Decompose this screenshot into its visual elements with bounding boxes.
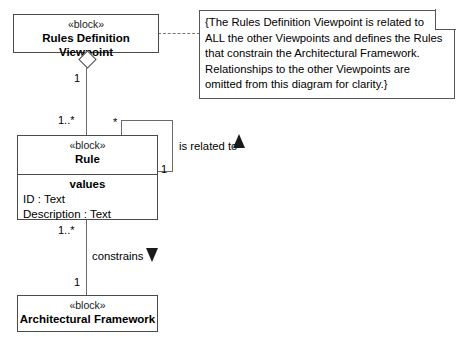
- bdd-diagram-canvas: {The Rules Definition Viewpoint is relat…: [0, 0, 466, 345]
- block-rules-definition-viewpoint[interactable]: «block» Rules Definition Viewpoint: [13, 14, 159, 53]
- block-rule[interactable]: «block» Rule values ID : Text Descriptio…: [17, 135, 158, 220]
- label-constrains: constrains: [92, 250, 144, 263]
- block-architectural-framework[interactable]: «block» Architectural Framework: [17, 295, 158, 332]
- block-stereotype: «block»: [18, 136, 157, 152]
- note-line-1: {The Rules Definition Viewpoint is relat…: [205, 15, 449, 31]
- diagram-note: {The Rules Definition Viewpoint is relat…: [199, 10, 455, 99]
- multiplicity-rule-bottom-end: 1..*: [58, 224, 75, 236]
- block-name: Architectural Framework: [18, 312, 157, 329]
- multiplicity-rule-self-one: 1: [161, 163, 167, 175]
- multiplicity-rule-top-end: 1..*: [58, 114, 75, 126]
- multiplicity-viewpoint-end: 1: [74, 72, 80, 84]
- self-assoc-line-top: [121, 120, 173, 121]
- multiplicity-framework-end: 1: [74, 276, 80, 288]
- block-stereotype: «block»: [14, 15, 158, 31]
- self-assoc-line-up: [121, 120, 122, 135]
- self-assoc-line-right: [172, 120, 173, 172]
- note-anchor-dashed-line: [158, 33, 200, 34]
- property-description: Description : Text: [18, 207, 157, 222]
- values-compartment: values ID : Text Description : Text: [18, 175, 157, 222]
- label-is-related-to: is related to: [179, 140, 237, 153]
- property-id: ID : Text: [18, 192, 157, 207]
- block-stereotype: «block»: [18, 296, 157, 312]
- note-line-3: that constrain the Architectural Framewo…: [205, 46, 449, 62]
- note-text: {The Rules Definition Viewpoint is relat…: [199, 10, 455, 97]
- multiplicity-rule-self-star: *: [113, 116, 117, 128]
- compartment-title: values: [18, 175, 157, 192]
- note-line-2: ALL the other Viewpoints and defines the…: [205, 31, 449, 47]
- block-name: Rule: [18, 152, 157, 169]
- constrains-edge-line: [86, 220, 87, 295]
- note-line-4: Relationships to the other Viewpoints ar…: [205, 62, 449, 78]
- direction-triangle-up-icon: [233, 134, 245, 148]
- direction-triangle-down-icon: [146, 248, 158, 262]
- aggregation-edge-line: [86, 68, 87, 135]
- note-line-5: omitted from this diagram for clarity.}: [205, 77, 449, 93]
